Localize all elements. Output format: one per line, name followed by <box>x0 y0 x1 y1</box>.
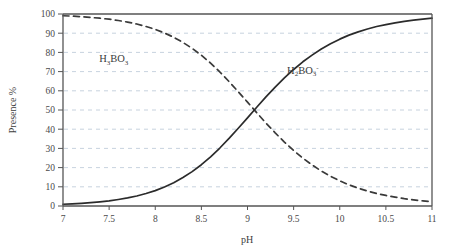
x-tick-label: 9 <box>245 214 250 224</box>
y-tick-label: 60 <box>46 86 56 96</box>
y-tick-label: 0 <box>50 201 55 211</box>
chart-background <box>0 0 454 250</box>
y-tick-label: 90 <box>46 29 56 39</box>
y-tick-label: 80 <box>46 48 56 58</box>
y-tick-label: 20 <box>46 163 56 173</box>
y-tick-label: 10 <box>46 182 56 192</box>
y-axis-title: Presence % <box>7 87 18 133</box>
x-axis-title: pH <box>241 234 253 245</box>
y-tick-label: 70 <box>46 67 56 77</box>
x-tick-label: 9.5 <box>288 214 300 224</box>
x-tick-label: 11 <box>427 214 436 224</box>
y-tick-label: 30 <box>46 144 56 154</box>
y-tick-label: 40 <box>46 125 56 135</box>
x-tick-label: 10.5 <box>378 214 395 224</box>
x-tick-label: 8.5 <box>195 214 207 224</box>
y-tick-label: 100 <box>41 9 56 19</box>
y-tick-label: 50 <box>46 105 56 115</box>
x-tick-label: 8 <box>153 214 158 224</box>
x-tick-label: 7.5 <box>103 214 115 224</box>
chart-figure: 0102030405060708090100 77.588.599.51010.… <box>0 0 454 250</box>
boron-speciation-chart: 0102030405060708090100 77.588.599.51010.… <box>0 0 454 250</box>
x-tick-label: 7 <box>61 214 66 224</box>
x-tick-label: 10 <box>335 214 345 224</box>
